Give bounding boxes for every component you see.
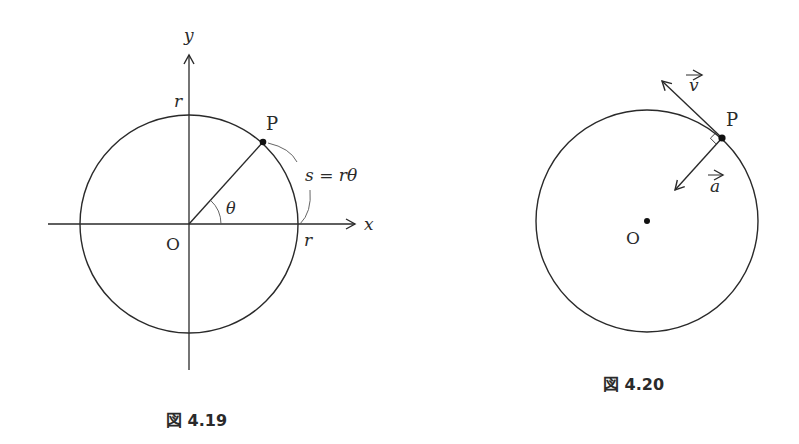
angle-arc <box>211 200 222 224</box>
point-p-label: P <box>266 113 278 134</box>
diagram-canvas: y x r r O P θ s = rθ 図 4.19 O P v a 図 4.… <box>0 0 799 444</box>
arc-length-bracket-top <box>268 143 297 162</box>
radius-label-right: r <box>304 230 313 250</box>
figure-4-19: y x r r O P θ s = rθ 図 4.19 <box>48 25 374 430</box>
y-axis-label: y <box>183 25 194 45</box>
origin-label: O <box>626 228 640 248</box>
point-p-dot <box>260 139 267 146</box>
acceleration-letter: a <box>710 176 720 196</box>
arc-length-bracket-bottom <box>300 190 310 224</box>
x-axis-label: x <box>364 214 374 234</box>
caption-4-20: 図 4.20 <box>603 375 664 394</box>
origin-dot <box>644 218 650 224</box>
angle-theta-label: θ <box>226 199 236 218</box>
velocity-letter: v <box>689 75 699 95</box>
point-p-label: P <box>726 109 738 130</box>
origin-label: O <box>166 234 180 254</box>
acceleration-label: a <box>708 175 723 196</box>
radius-label-top: r <box>174 91 183 111</box>
point-p-dot <box>718 134 725 141</box>
arc-length-label: s = rθ <box>305 165 357 185</box>
caption-4-19: 図 4.19 <box>166 411 227 430</box>
figure-4-20: O P v a 図 4.20 <box>536 75 758 394</box>
velocity-label: v <box>686 75 702 95</box>
